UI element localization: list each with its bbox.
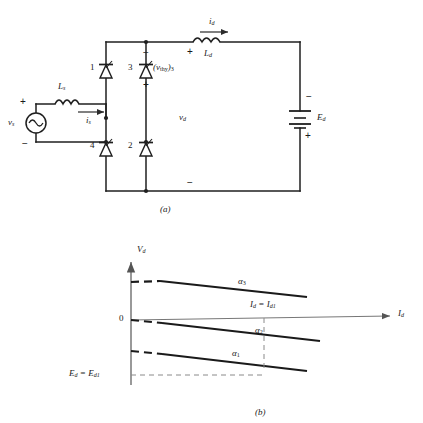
annotation-alpha3: α3 bbox=[238, 277, 246, 286]
label-ls: Ls bbox=[58, 82, 65, 91]
label-vd-minus: − bbox=[187, 178, 193, 188]
inductor-ld-symbol bbox=[193, 38, 220, 42]
thyristor-1-symbol bbox=[99, 61, 113, 78]
label-vthy3: (vthy)3 bbox=[153, 63, 174, 72]
label-vthy3-minus: − bbox=[143, 48, 149, 58]
annotation-alpha1: α1 bbox=[232, 349, 240, 358]
label-thyristor-1: 1 bbox=[90, 63, 95, 72]
label-thyristor-4: 4 bbox=[90, 141, 95, 150]
label-ed-minus: − bbox=[306, 92, 312, 102]
curve-alpha1 bbox=[131, 351, 307, 371]
axis-label-vd: Vd bbox=[137, 245, 146, 254]
label-thyristor-2: 2 bbox=[128, 141, 133, 150]
label-id-current: id bbox=[209, 17, 215, 26]
curve-alpha1-dashed bbox=[131, 351, 162, 354]
curve-alpha3-solid bbox=[160, 281, 307, 297]
caption-b: (b) bbox=[255, 408, 266, 417]
curve-alpha2-dashed bbox=[131, 320, 162, 323]
label-vs-plus: + bbox=[20, 97, 26, 107]
node-mid-lower bbox=[144, 140, 148, 144]
annotation-id1: Id = Id1 bbox=[250, 300, 276, 309]
node-bottom-middle bbox=[144, 189, 148, 193]
caption-a: (a) bbox=[160, 205, 171, 214]
annotation-ed1: Ed = Ed1 bbox=[69, 369, 100, 378]
label-thyristor-3: 3 bbox=[128, 63, 133, 72]
label-is: is bbox=[86, 116, 91, 125]
graph-origin-label: 0 bbox=[119, 314, 124, 323]
annotation-alpha2: α2 bbox=[255, 326, 263, 335]
axis-label-id: Id bbox=[398, 309, 404, 318]
ac-source-symbol bbox=[26, 113, 46, 133]
axis-id bbox=[131, 316, 390, 320]
label-ed-plus: + bbox=[305, 131, 311, 141]
label-vs-minus: − bbox=[22, 139, 28, 149]
curve-alpha2-solid bbox=[162, 323, 320, 341]
label-vthy3-plus: + bbox=[143, 80, 149, 90]
node-ac-lower bbox=[104, 140, 108, 144]
thyristor-3-symbol bbox=[139, 61, 153, 78]
node-ac-upper bbox=[104, 116, 108, 120]
curve-alpha2 bbox=[131, 320, 320, 341]
label-ld: Ld bbox=[204, 49, 212, 58]
battery-ed-symbol bbox=[289, 111, 311, 128]
node-top-middle bbox=[144, 40, 148, 44]
curve-alpha3-dashed bbox=[131, 281, 160, 282]
figure-root: vs + − Ls is 1 3 4 2 (vthy)3 − + vd + − … bbox=[0, 0, 423, 423]
circuit-and-graph-vector-layer bbox=[0, 0, 423, 423]
label-ed: Ed bbox=[317, 113, 326, 122]
label-vd: vd bbox=[179, 113, 186, 122]
inductor-ls-symbol bbox=[55, 100, 79, 104]
curve-alpha3 bbox=[131, 281, 307, 297]
label-vd-plus: + bbox=[187, 47, 193, 57]
label-vs: vs bbox=[8, 118, 14, 127]
